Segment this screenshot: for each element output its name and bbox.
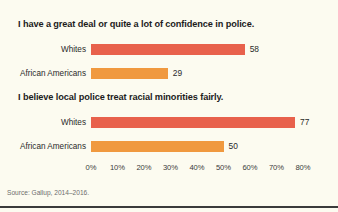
chart-figure: I have a great deal or quite a lot of co… (0, 0, 338, 212)
bar-african-americans (91, 141, 224, 152)
bar-value-label: 50 (229, 140, 238, 153)
panel-title: I have a great deal or quite a lot of co… (18, 19, 254, 29)
category-label: Whites (0, 43, 86, 56)
bottom-rule (0, 206, 338, 208)
bar-row: African Americans 50 (0, 140, 338, 153)
x-axis-tick: 10% (106, 162, 130, 174)
bar-value-label: 58 (250, 43, 259, 56)
bar-row: Whites 77 (0, 116, 338, 129)
x-axis-tick: 70% (265, 162, 289, 174)
category-label: Whites (0, 116, 86, 129)
bar-whites (91, 44, 245, 55)
bar-value-label: 29 (173, 67, 182, 80)
x-axis-tick: 80% (291, 162, 315, 174)
bar-row: Whites 58 (0, 43, 338, 56)
x-axis-tick: 0% (79, 162, 103, 174)
panel-title: I believe local police treat racial mino… (18, 92, 223, 102)
source-note: Source: Gallup, 2014–2016. (7, 189, 89, 196)
x-axis-tick: 60% (238, 162, 262, 174)
x-axis: 0%10%20%30%40%50%60%70%80% (0, 162, 338, 174)
x-axis-tick: 40% (185, 162, 209, 174)
x-axis-tick: 50% (212, 162, 236, 174)
x-axis-tick: 20% (132, 162, 156, 174)
bar-row: African Americans 29 (0, 67, 338, 80)
category-label: African Americans (0, 140, 86, 153)
bar-african-americans (91, 68, 168, 79)
category-label: African Americans (0, 67, 86, 80)
x-axis-tick: 30% (159, 162, 183, 174)
bar-value-label: 77 (300, 116, 309, 129)
bar-whites (91, 117, 295, 128)
